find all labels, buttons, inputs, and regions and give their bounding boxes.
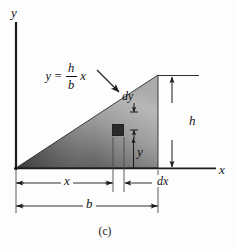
equation-variable: x (79, 70, 88, 83)
figure-caption: (c) (0, 225, 210, 237)
dx-dimension-label: dx (155, 175, 170, 187)
dy-dimension-label: dy (122, 90, 133, 102)
x-dimension-label: x (61, 174, 73, 187)
differential-area-element (113, 125, 124, 136)
height-dimension-label: h (189, 114, 196, 127)
figure-drawing (0, 0, 237, 250)
equation-lhs: y (44, 70, 53, 83)
figure-container: y x y = h b x h dy y x dx b (c) (0, 0, 237, 250)
y-axis-label: y (11, 6, 17, 19)
equation-numerator: h (68, 62, 74, 76)
equation-denominator: b (68, 78, 74, 92)
equation-equals-sign: = (53, 70, 64, 83)
x-axis-label: x (219, 163, 225, 176)
base-dimension-label: b (83, 197, 96, 210)
equation-fraction: h b (66, 62, 77, 91)
equation-leader-arrow (97, 70, 119, 92)
line-equation: y = h b x (44, 62, 87, 91)
y-dimension-label: y (137, 145, 143, 158)
